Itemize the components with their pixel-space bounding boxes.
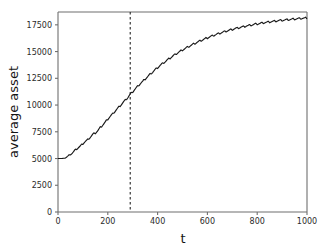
chart-figure: 025005000750010000125001500017500 020040…: [0, 0, 329, 250]
line-chart: 025005000750010000125001500017500 020040…: [0, 0, 329, 250]
y-tick-label: 7500: [32, 128, 52, 137]
x-tick-label: 800: [250, 217, 265, 226]
y-tick-label: 17500: [27, 21, 52, 30]
y-tick-label: 0: [47, 208, 52, 217]
y-tick-label: 12500: [27, 74, 52, 83]
y-tick-label: 15000: [27, 48, 52, 57]
y-tick-label: 2500: [32, 181, 52, 190]
x-tick-label: 1000: [297, 217, 317, 226]
plot-frame: [58, 12, 307, 212]
y-axis-label: average asset: [6, 66, 21, 158]
x-tick-label: 0: [55, 217, 60, 226]
y-axis-ticks: 025005000750010000125001500017500: [27, 21, 58, 217]
x-tick-label: 600: [200, 217, 215, 226]
x-tick-label: 200: [100, 217, 115, 226]
data-series-average-asset: [58, 17, 307, 158]
x-axis-label: t: [180, 231, 185, 246]
x-axis-ticks: 02004006008001000: [55, 212, 317, 226]
x-tick-label: 400: [150, 217, 165, 226]
y-tick-label: 10000: [27, 101, 52, 110]
y-tick-label: 5000: [32, 155, 52, 164]
